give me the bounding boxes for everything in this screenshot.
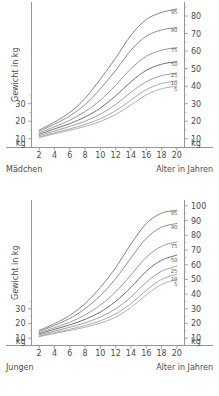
right-y-tick-label: 30	[191, 100, 201, 109]
percentile-label-p25: 25	[171, 72, 178, 78]
y-axis-title: Gewicht in kg	[11, 245, 20, 300]
x-tick-label: 6	[67, 349, 72, 358]
x-tick-label: 14	[126, 349, 136, 358]
chart-girls: 24681012141618201020304050607080kg102030…	[0, 0, 219, 198]
percentile-curves	[39, 9, 177, 138]
percentile-label-p5: 5	[174, 281, 177, 287]
chart-canvas-girls: 24681012141618201020304050607080kg102030…	[0, 0, 219, 198]
percentile-label-p75: 75	[171, 47, 178, 53]
x-tick-label: 4	[52, 151, 57, 160]
right-y-tick-label: 30	[191, 305, 201, 314]
x-tick-label: 2	[37, 151, 42, 160]
percentile-label-p75: 75	[171, 243, 178, 249]
group-label-girls: Mädchen	[6, 165, 42, 174]
percentile-label-p5: 5	[174, 86, 177, 92]
x-tick-label: 8	[83, 151, 88, 160]
right-y-tick-label: 60	[191, 261, 201, 270]
x-tick-label: 4	[52, 349, 57, 358]
x-tick-label: 14	[126, 151, 136, 160]
growth-chart-sheet: 24681012141618201020304050607080kg102030…	[0, 0, 219, 396]
percentile-curve-p25	[39, 73, 177, 136]
right-y-unit-label: kg	[191, 139, 201, 148]
right-y-tick-label: 20	[191, 319, 201, 328]
right-y-tick-label: 80	[191, 231, 201, 240]
percentile-curve-p50	[39, 62, 177, 135]
percentile-label-p95: 95	[171, 210, 178, 216]
x-tick-label: 16	[141, 349, 151, 358]
right-y-tick-label: 40	[191, 290, 201, 299]
x-tick-label: 12	[111, 151, 121, 160]
percentile-curve-p10	[39, 81, 177, 137]
right-y-tick-label: 100	[191, 202, 206, 211]
x-tick-label: 2	[37, 349, 42, 358]
group-label-boys: Jungen	[5, 363, 34, 372]
percentile-label-p95: 95	[171, 9, 178, 15]
percentile-curves	[39, 210, 177, 336]
x-axis-title: Alter in Jahren	[156, 165, 213, 174]
percentile-curve-p95	[39, 9, 177, 130]
x-tick-label: 6	[67, 151, 72, 160]
chart-boys: 2468101214161820102030405060708090100kg1…	[0, 198, 219, 396]
x-tick-label: 20	[172, 349, 182, 358]
left-y-tick-label: 30	[15, 305, 25, 314]
right-y-tick-label: 50	[191, 275, 201, 284]
percentile-label-p50: 50	[171, 257, 178, 263]
right-y-unit-label: kg	[191, 337, 201, 346]
percentile-label-p90: 90	[171, 27, 178, 33]
left-y-unit-label: kg	[16, 337, 26, 346]
x-tick-label: 10	[95, 151, 105, 160]
x-axis-title: Alter in Jahren	[156, 363, 213, 372]
percentile-curve-p50	[39, 255, 177, 334]
right-y-tick-label: 70	[191, 246, 201, 255]
x-tick-label: 8	[83, 349, 88, 358]
right-y-tick-label: 60	[191, 47, 201, 56]
percentile-label-p50: 50	[171, 61, 178, 67]
percentile-curve-p10	[39, 274, 177, 336]
y-axis-title: Gewicht in kg	[11, 47, 20, 102]
percentile-curve-p90	[39, 27, 177, 131]
chart-canvas-boys: 2468101214161820102030405060708090100kg1…	[0, 198, 219, 396]
percentile-curve-p5	[39, 86, 177, 138]
x-tick-label: 10	[95, 349, 105, 358]
x-tick-label: 18	[156, 349, 166, 358]
percentile-label-p90: 90	[171, 224, 178, 230]
left-y-tick-label: 20	[15, 117, 25, 126]
left-y-tick-label: 20	[15, 319, 25, 328]
percentile-label-p25: 25	[171, 268, 178, 274]
right-y-tick-label: 90	[191, 217, 201, 226]
x-tick-label: 16	[141, 151, 151, 160]
percentile-curve-p25	[39, 266, 177, 335]
right-y-tick-label: 70	[191, 30, 201, 39]
x-tick-label: 20	[172, 151, 182, 160]
x-tick-label: 12	[111, 349, 121, 358]
right-y-tick-label: 40	[191, 82, 201, 91]
right-y-tick-label: 20	[191, 117, 201, 126]
right-y-tick-label: 50	[191, 65, 201, 74]
percentile-curve-p95	[39, 210, 177, 330]
left-y-unit-label: kg	[16, 139, 26, 148]
x-tick-label: 18	[156, 151, 166, 160]
right-y-tick-label: 80	[191, 12, 201, 21]
